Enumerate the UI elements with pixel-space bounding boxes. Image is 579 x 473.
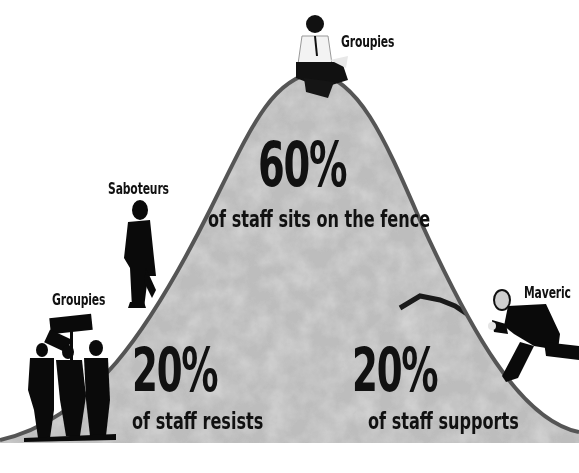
top-group-label: Groupies	[341, 33, 394, 51]
right-caption: of staff supports	[368, 410, 519, 433]
sitting-person-silhouette	[282, 12, 362, 107]
left-groupies-label: Groupies	[52, 291, 105, 309]
saboteurs-label: Saboteurs	[108, 180, 169, 198]
infographic: Groupies Saboteurs Groupies Maveric 60% …	[0, 0, 579, 473]
protesters-group-silhouette	[18, 300, 138, 460]
center-percent: 60%	[258, 134, 346, 196]
left-caption: of staff resists	[132, 410, 263, 433]
left-percent: 20%	[132, 340, 217, 400]
saboteur-silhouette	[118, 198, 168, 313]
center-caption: of staff sits on the fence	[208, 208, 430, 231]
maverick-label: Maveric	[524, 284, 571, 302]
right-percent: 20%	[352, 340, 437, 400]
